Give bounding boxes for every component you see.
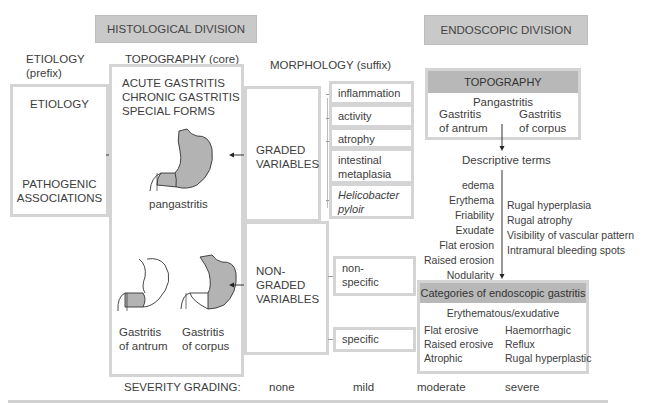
severity-none: none xyxy=(269,380,295,394)
nonspecific-line2: specific xyxy=(342,275,413,289)
descriptive-terms-right: Rugal hyperplasia Rugal atrophy Visibili… xyxy=(507,199,634,257)
nongraded-variables-box: NON- GRADED VARIABLES xyxy=(244,221,329,355)
endoscopic-corpus: Gastritis of corpus xyxy=(519,107,566,135)
endo-antrum-line2: of antrum xyxy=(439,121,488,135)
category-rugal-hyperplastic: Rugal hyperplastic xyxy=(505,352,591,365)
activity-label: activity xyxy=(338,110,372,122)
endoscopic-topography-title: TOPOGRAPHY xyxy=(428,71,578,93)
pathogenic-line1: PATHOGENIC xyxy=(9,177,110,191)
term-friability: Friability xyxy=(412,209,494,222)
category-haemorrhagic: Haemorrhagic xyxy=(505,324,591,337)
term-erythema: Erythema xyxy=(412,194,494,207)
pathogenic-associations: PATHOGENIC ASSOCIATIONS xyxy=(9,177,110,205)
descriptive-terms-left: edema Erythema Friability Exudate Flat e… xyxy=(412,179,494,282)
corpus-label: Gastritis of corpus xyxy=(182,325,229,353)
nongraded-label-line3: VARIABLES xyxy=(256,292,319,306)
etiology-column-label-line1: ETIOLOGY xyxy=(26,52,85,66)
category-raised-erosive: Raised erosive xyxy=(424,338,493,351)
severity-severe: severe xyxy=(505,380,540,394)
category-erythematous: Erythematous/exudative xyxy=(420,307,586,320)
categories-title: Categories of endoscopic gastritis xyxy=(420,283,586,303)
categories-left: Flat erosive Raised erosive Atrophic xyxy=(424,324,493,365)
arrow-topography-to-descriptive xyxy=(499,124,505,154)
stomach-antrum-icon xyxy=(117,257,177,312)
term-raised-erosion: Raised erosion xyxy=(412,254,494,267)
pathogenic-line2: ASSOCIATIONS xyxy=(9,191,110,205)
nongraded-item-specific: specific xyxy=(333,327,416,352)
term-vascular-pattern: Visibility of vascular pattern xyxy=(507,229,634,242)
term-rugal-hyperplasia: Rugal hyperplasia xyxy=(507,199,634,212)
severity-grading-label: SEVERITY GRADING: xyxy=(124,380,241,394)
graded-variables-box: GRADED VARIABLES xyxy=(244,86,321,222)
severity-mild: mild xyxy=(353,380,374,394)
term-exudate: Exudate xyxy=(412,224,494,237)
endo-corpus-line1: Gastritis xyxy=(519,107,566,121)
pangastritis-label: pangastritis xyxy=(149,197,208,211)
bottom-divider xyxy=(8,400,608,403)
endo-antrum-line1: Gastritis xyxy=(439,107,488,121)
topography-box: ACUTE GASTRITIS CHRONIC GASTRITIS SPECIA… xyxy=(109,64,244,377)
intestinal-label: intestinal xyxy=(338,153,411,167)
type-chronic: CHRONIC GASTRITIS xyxy=(122,90,240,104)
corpus-label-line2: of corpus xyxy=(182,339,229,353)
etiology-column-label-line2: (prefix) xyxy=(26,66,85,80)
categories-box: Categories of endoscopic gastritis Eryth… xyxy=(417,280,589,374)
nongraded-label-line2: GRADED xyxy=(256,278,319,292)
arrow-descriptive-to-categories xyxy=(499,170,505,280)
corpus-label-line1: Gastritis xyxy=(182,325,229,339)
severity-moderate: moderate xyxy=(417,380,466,394)
graded-item-inflammation: inflammation xyxy=(329,81,414,105)
graded-item-atrophy: atrophy xyxy=(329,127,414,149)
term-flat-erosion: Flat erosion xyxy=(412,239,494,252)
category-reflux: Reflux xyxy=(505,338,591,351)
etiology-title: ETIOLOGY xyxy=(13,97,106,111)
endoscopic-division-title: ENDOSCOPIC DIVISION xyxy=(441,24,572,36)
etiology-column-label: ETIOLOGY (prefix) xyxy=(26,52,85,80)
graded-item-activity: activity xyxy=(329,104,414,128)
category-atrophic: Atrophic xyxy=(424,352,493,365)
endoscopic-antrum: Gastritis of antrum xyxy=(439,107,488,135)
category-flat-erosive: Flat erosive xyxy=(424,324,493,337)
graded-item-intestinal-metaplasia: intestinal metaplasia xyxy=(329,148,414,184)
antrum-label-line2: of antrum xyxy=(119,339,168,353)
connector-graded xyxy=(327,98,328,208)
nonspecific-line1: non- xyxy=(342,261,413,275)
endo-corpus-line2: of corpus xyxy=(519,121,566,135)
antrum-label: Gastritis of antrum xyxy=(119,325,168,353)
nongraded-item-nonspecific: non- specific xyxy=(333,256,416,296)
morphology-column-label: MORPHOLOGY (suffix) xyxy=(270,58,391,72)
term-rugal-atrophy: Rugal atrophy xyxy=(507,214,634,227)
pylori-label: pyloir xyxy=(338,202,411,216)
term-edema: edema xyxy=(412,179,494,192)
graded-variables-label: GRADED VARIABLES xyxy=(256,143,319,171)
histological-division-header: HISTOLOGICAL DIVISION xyxy=(95,15,257,43)
nongraded-variables-label: NON- GRADED VARIABLES xyxy=(256,264,319,306)
histological-division-title: HISTOLOGICAL DIVISION xyxy=(107,23,245,35)
graded-item-helicobacter-pylori: Helicobacter pyloir xyxy=(329,183,414,219)
antrum-label-line1: Gastritis xyxy=(119,325,168,339)
topography-types: ACUTE GASTRITIS CHRONIC GASTRITIS SPECIA… xyxy=(122,76,240,118)
endoscopic-division-header: ENDOSCOPIC DIVISION xyxy=(424,15,588,45)
nongraded-label-line1: NON- xyxy=(256,264,319,278)
type-special: SPECIAL FORMS xyxy=(122,104,240,118)
etiology-box: ETIOLOGY PATHOGENIC ASSOCIATIONS xyxy=(10,84,109,217)
term-intramural-bleeding: Intramural bleeding spots xyxy=(507,244,634,257)
type-acute: ACUTE GASTRITIS xyxy=(122,76,240,90)
categories-right: Haemorrhagic Reflux Rugal hyperplastic xyxy=(505,324,591,365)
atrophy-label: atrophy xyxy=(338,133,375,145)
helicobacter-label: Helicobacter xyxy=(338,188,411,202)
graded-label-line1: GRADED xyxy=(256,143,319,157)
graded-label-line2: VARIABLES xyxy=(256,157,319,171)
stomach-pangastritis-icon xyxy=(147,127,217,192)
descriptive-terms-title: Descriptive terms xyxy=(462,153,551,167)
metaplasia-label: metaplasia xyxy=(338,167,411,181)
inflammation-label: inflammation xyxy=(338,87,400,99)
specific-label: specific xyxy=(342,333,379,345)
